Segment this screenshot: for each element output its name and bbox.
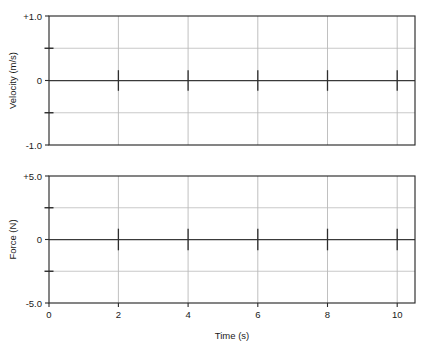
force-axis-title: Force (N) (7, 219, 18, 259)
xtick-label-10: 10 (392, 309, 403, 320)
dual-panel-time-series-chart: +1.0 0 -1.0 Velocity (m/s) (0, 0, 435, 356)
force-ytick-label-min: -5.0 (26, 298, 42, 309)
force-ytick-label-mid: 0 (37, 234, 42, 245)
figure-container: +1.0 0 -1.0 Velocity (m/s) (0, 0, 435, 356)
time-axis-title: Time (s) (215, 330, 249, 341)
velocity-ytick-label-max: +1.0 (23, 11, 42, 22)
velocity-ytick-label-min: -1.0 (26, 140, 42, 151)
velocity-axis-title: Velocity (m/s) (7, 52, 18, 109)
xtick-label-8: 8 (325, 309, 330, 320)
xtick-label-2: 2 (116, 309, 121, 320)
xtick-label-6: 6 (255, 309, 260, 320)
xtick-label-4: 4 (185, 309, 190, 320)
xtick-label-0: 0 (46, 309, 51, 320)
velocity-ytick-label-mid: 0 (37, 75, 42, 86)
force-ytick-label-max: +5.0 (23, 171, 42, 182)
